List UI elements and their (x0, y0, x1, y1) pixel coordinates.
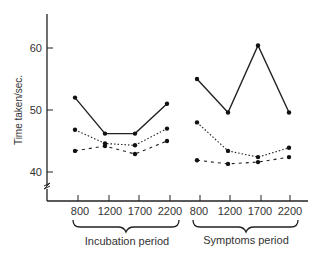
data-point (195, 77, 199, 81)
x-tick-label: 1700 (128, 205, 152, 217)
data-point (226, 110, 230, 114)
data-point (195, 158, 199, 162)
line-chart: 60 50 40 Time taken/sec. 800 1200 1700 2… (0, 0, 323, 254)
series-line-solid (75, 98, 167, 134)
series-line-dashed (75, 141, 167, 154)
data-point (256, 155, 260, 159)
data-point (226, 162, 230, 166)
x-tick-label: 800 (71, 205, 89, 217)
data-point (287, 155, 291, 159)
data-point (165, 139, 169, 143)
data-point (165, 102, 169, 106)
incubation-brace (73, 220, 179, 232)
data-point (73, 128, 77, 132)
x-tick-label: 2200 (158, 205, 182, 217)
data-point (73, 149, 77, 153)
data-point (287, 146, 291, 150)
data-point (256, 160, 260, 164)
incubation-period-label: Incubation period (85, 235, 169, 247)
y-tick-50: 50 (30, 104, 42, 116)
data-point (73, 95, 77, 99)
y-tick-40: 40 (30, 166, 42, 178)
x-tick-label: 1200 (98, 205, 122, 217)
x-tick-label: 1700 (248, 205, 272, 217)
symptoms-period-label: Symptoms period (203, 234, 289, 246)
data-point (133, 152, 137, 156)
y-tick-60: 60 (30, 42, 42, 54)
data-point (287, 110, 291, 114)
x-ticks: 800 1200 1700 2200 800 1200 1700 2200 (71, 195, 302, 217)
x-tick-label: 1200 (218, 205, 242, 217)
y-axis-title: Time taken/sec. (13, 75, 24, 145)
series-line-dotted (197, 122, 289, 157)
data-point (133, 131, 137, 135)
y-ticks: 60 50 40 (30, 42, 53, 178)
data-point (103, 131, 107, 135)
series-line-dotted (75, 129, 167, 146)
data-point (165, 126, 169, 130)
series-line-solid (197, 46, 289, 113)
series-line-dashed (197, 157, 289, 164)
x-tick-label: 800 (190, 205, 208, 217)
data-point (133, 143, 137, 147)
series-layer (73, 43, 291, 166)
x-tick-label: 2200 (278, 205, 302, 217)
symptoms-brace (193, 220, 298, 232)
data-point (256, 43, 260, 47)
data-point (226, 149, 230, 153)
data-point (195, 120, 199, 124)
data-point (103, 144, 107, 148)
